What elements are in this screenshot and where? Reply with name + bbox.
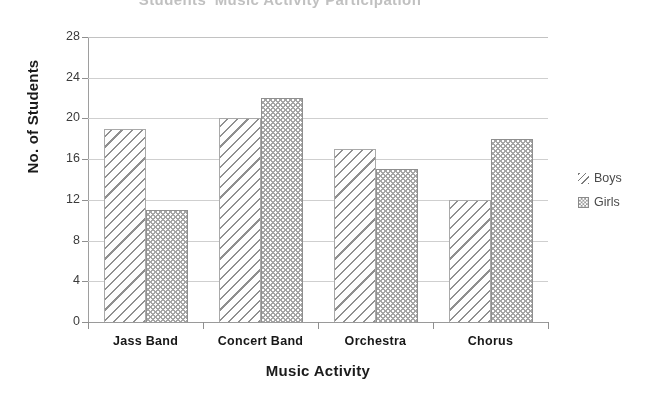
gridline — [88, 118, 548, 119]
x-axis-title: Music Activity — [88, 362, 548, 379]
bar-girls-orchestra — [376, 169, 418, 322]
bar-girls-jass-band — [146, 210, 188, 322]
bar-girls-chorus — [491, 139, 533, 322]
y-tick-label: 0 — [46, 314, 80, 328]
x-category-label: Jass Band — [88, 334, 203, 348]
y-tick-mark — [82, 241, 88, 242]
legend-label-boys: Boys — [594, 171, 622, 185]
y-tick-label: 20 — [46, 110, 80, 124]
x-tick-mark — [203, 322, 204, 329]
legend-swatch-girls-icon — [578, 197, 589, 208]
x-tick-mark — [548, 322, 549, 329]
legend-item-boys: Boys — [578, 166, 652, 190]
gridline — [88, 159, 548, 160]
y-tick-mark — [82, 37, 88, 38]
bar-boys-concert-band — [219, 118, 261, 322]
x-tick-mark — [88, 322, 89, 329]
x-tick-mark — [318, 322, 319, 329]
gridline — [88, 78, 548, 79]
y-tick-label: 16 — [46, 151, 80, 165]
y-tick-mark — [82, 118, 88, 119]
chart-legend: Boys Girls — [578, 166, 652, 214]
bar-boys-chorus — [449, 200, 491, 322]
y-tick-label: 12 — [46, 192, 80, 206]
gridline — [88, 37, 548, 38]
legend-label-girls: Girls — [594, 195, 620, 209]
y-tick-label: 28 — [46, 29, 80, 43]
y-tick-label: 8 — [46, 233, 80, 247]
plot-area — [88, 37, 548, 322]
x-category-label: Concert Band — [203, 334, 318, 348]
y-tick-label: 4 — [46, 273, 80, 287]
legend-swatch-boys-icon — [578, 173, 589, 184]
legend-item-girls: Girls — [578, 190, 652, 214]
y-tick-mark — [82, 78, 88, 79]
bar-boys-jass-band — [104, 129, 146, 322]
x-category-label: Chorus — [433, 334, 548, 348]
y-tick-mark — [82, 159, 88, 160]
bar-boys-orchestra — [334, 149, 376, 322]
x-category-label: Orchestra — [318, 334, 433, 348]
y-tick-mark — [82, 200, 88, 201]
y-tick-label: 24 — [46, 70, 80, 84]
bar-girls-concert-band — [261, 98, 303, 322]
bar-chart: Students' Music Activity Participation N… — [0, 0, 652, 403]
chart-title: Students' Music Activity Participation — [0, 0, 560, 8]
y-axis-title: No. of Students — [24, 37, 41, 197]
x-tick-mark — [433, 322, 434, 329]
y-tick-mark — [82, 281, 88, 282]
